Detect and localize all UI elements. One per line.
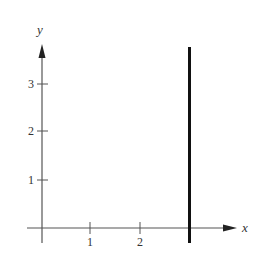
chart: y x 1 2 3 1 2 <box>0 0 260 258</box>
y-tick-label-3: 3 <box>28 77 34 91</box>
x-tick-label-2: 2 <box>137 235 143 249</box>
y-tick-label-1: 1 <box>28 173 34 187</box>
y-tick-label-2: 2 <box>28 124 34 138</box>
y-axis-label: y <box>35 22 43 37</box>
x-tick-label-1: 1 <box>87 235 93 249</box>
y-axis-arrow-icon <box>39 44 46 58</box>
x-axis-arrow-icon <box>223 225 237 232</box>
x-axis-label: x <box>241 220 248 235</box>
